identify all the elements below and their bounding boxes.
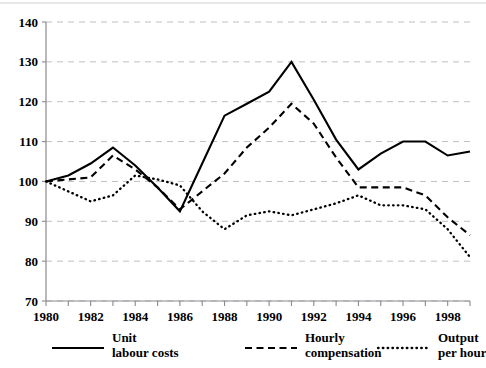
y-tick-label-120: 120 <box>19 94 39 109</box>
y-tick-label-140: 140 <box>19 15 39 30</box>
chart-container: 708090100110120130140 198019821984198619… <box>0 0 486 368</box>
y-tick-label-100: 100 <box>19 174 39 189</box>
line-chart-figure: 708090100110120130140 198019821984198619… <box>0 0 486 368</box>
x-tick-label-1982: 1982 <box>78 309 104 324</box>
chart-legend: Unitlabour costsHourlycompensationOutput… <box>52 330 486 360</box>
series-line-1 <box>46 104 470 236</box>
y-tick-label-110: 110 <box>19 134 38 149</box>
x-axis-tick-labels: 1980198219841986198819901992199419961998 <box>33 309 461 324</box>
gridlines <box>42 22 470 301</box>
legend-label-0-line1: Unit <box>112 330 137 345</box>
x-tick-label-1990: 1990 <box>256 309 282 324</box>
x-tick-label-1994: 1994 <box>345 309 372 324</box>
legend-label-2-line1: Output <box>438 330 479 345</box>
y-tick-label-80: 80 <box>25 254 38 269</box>
x-tick-label-1996: 1996 <box>390 309 417 324</box>
x-tick-label-1992: 1992 <box>301 309 327 324</box>
x-axis-tick-marks <box>46 301 470 306</box>
legend-label-2-line2: per hour <box>438 345 486 360</box>
data-series-group <box>46 62 470 257</box>
x-tick-label-1980: 1980 <box>33 309 59 324</box>
legend-label-1-line2: compensation <box>305 345 382 360</box>
x-tick-label-1998: 1998 <box>435 309 462 324</box>
x-tick-label-1988: 1988 <box>212 309 239 324</box>
legend-label-1-line1: Hourly <box>305 330 345 345</box>
x-tick-label-1986: 1986 <box>167 309 194 324</box>
y-tick-label-130: 130 <box>19 54 39 69</box>
y-tick-label-70: 70 <box>25 294 38 309</box>
y-tick-label-90: 90 <box>25 214 38 229</box>
legend-label-0-line2: labour costs <box>112 345 179 360</box>
y-axis-tick-labels: 708090100110120130140 <box>19 15 39 309</box>
x-tick-label-1984: 1984 <box>122 309 149 324</box>
